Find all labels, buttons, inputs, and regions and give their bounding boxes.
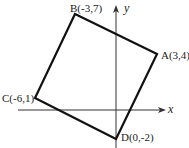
square-abcd <box>35 14 157 139</box>
coordinate-diagram: B(-3,7) y A(3,4) C(-6,1) x D(0,-2) <box>0 0 189 148</box>
x-axis-label: x <box>168 103 173 115</box>
y-axis-label: y <box>124 2 129 14</box>
point-label-a: A(3,4) <box>161 50 189 61</box>
point-label-d: D(0,-2) <box>121 132 154 143</box>
diagram-canvas <box>0 0 189 148</box>
point-label-b: B(-3,7) <box>70 3 102 14</box>
point-label-c: C(-6,1) <box>2 93 34 104</box>
